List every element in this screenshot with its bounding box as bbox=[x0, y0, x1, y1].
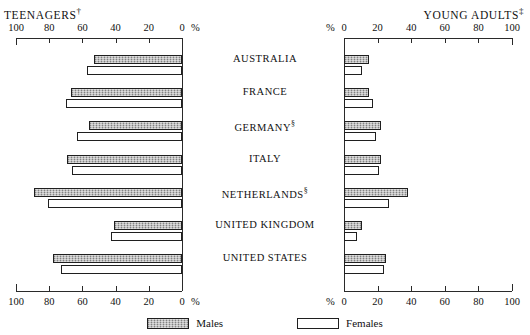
left-bar-male-united-states bbox=[53, 254, 182, 263]
right-axis-unit: % bbox=[326, 296, 335, 307]
right-bar-male-italy bbox=[344, 155, 381, 164]
right-axis-tick bbox=[411, 286, 412, 291]
left-axis-tick bbox=[82, 286, 83, 291]
left-axis-tick bbox=[49, 38, 50, 43]
right-axis-tick-label: 40 bbox=[406, 296, 417, 307]
right-axis-labels-bottom: 020406080100 bbox=[0, 296, 530, 309]
right-axis-tick-label: 100 bbox=[504, 296, 520, 307]
legend-label-males: Males bbox=[196, 317, 223, 329]
right-bar-male-united-kingdom bbox=[344, 221, 362, 230]
right-axis-tick-label: 100 bbox=[504, 22, 520, 33]
right-axis-tick bbox=[478, 286, 479, 291]
right-axis-labels-top: 020406080100 bbox=[0, 22, 530, 35]
category-label-text: ITALY bbox=[249, 153, 281, 164]
left-axis-line bbox=[16, 291, 182, 292]
right-axis-tick-label: 60 bbox=[440, 296, 451, 307]
right-bar-female-united-states bbox=[344, 265, 384, 274]
category-label-text: GERMANY bbox=[234, 122, 291, 133]
right-axis-tick bbox=[411, 38, 412, 43]
category-label-text: AUSTRALIA bbox=[233, 53, 297, 64]
left-bar-male-united-kingdom bbox=[114, 221, 182, 230]
legend-item-females: Females bbox=[297, 317, 383, 329]
right-axis-tick-label: 60 bbox=[440, 22, 451, 33]
left-panel-title-text: TEENAGERS bbox=[4, 9, 76, 21]
category-label-netherlands: NETHERLANDS§ bbox=[195, 186, 335, 200]
right-bar-female-france bbox=[344, 99, 373, 108]
right-axis-tick bbox=[445, 38, 446, 43]
left-zero-spine bbox=[182, 38, 183, 291]
right-axis-tick bbox=[378, 38, 379, 43]
left-bar-female-france bbox=[66, 99, 182, 108]
chart-legend: Males Females bbox=[0, 317, 530, 329]
right-bar-female-germany bbox=[344, 132, 376, 141]
right-axis-line bbox=[344, 38, 512, 39]
left-axis-tick bbox=[149, 38, 150, 43]
left-bar-female-united-kingdom bbox=[111, 232, 182, 241]
right-panel-title-text: YOUNG ADULTS bbox=[424, 9, 519, 21]
right-axis-tick bbox=[478, 38, 479, 43]
category-label-text: UNITED KINGDOM bbox=[215, 219, 314, 230]
right-axis-unit: % bbox=[326, 22, 335, 33]
category-label-text: NETHERLANDS bbox=[222, 188, 304, 199]
right-axis-tick-label: 0 bbox=[341, 296, 346, 307]
category-label-united-states: UNITED STATES bbox=[195, 252, 335, 263]
left-panel-title-marker: † bbox=[76, 6, 81, 16]
left-axis-tick bbox=[16, 38, 17, 45]
right-bar-female-italy bbox=[344, 166, 379, 175]
legend-item-males: Males bbox=[147, 317, 223, 329]
left-axis-tick bbox=[149, 286, 150, 291]
right-axis-tick-label: 0 bbox=[341, 22, 346, 33]
right-bar-male-netherlands bbox=[344, 188, 408, 197]
right-axis-tick-label: 20 bbox=[372, 296, 383, 307]
right-axis-tick-label: 80 bbox=[473, 22, 484, 33]
category-label-united-kingdom: UNITED KINGDOM bbox=[195, 219, 335, 230]
left-axis-line bbox=[16, 38, 182, 39]
left-axis-tick bbox=[16, 284, 17, 291]
left-bar-female-australia bbox=[87, 66, 182, 75]
category-label-australia: AUSTRALIA bbox=[195, 53, 335, 64]
legend-swatch-females-icon bbox=[297, 318, 339, 329]
category-label-text: FRANCE bbox=[243, 86, 287, 97]
category-label-marker: § bbox=[304, 186, 309, 195]
category-label-france: FRANCE bbox=[195, 86, 335, 97]
right-axis-tick bbox=[512, 284, 513, 291]
left-bar-female-italy bbox=[72, 166, 182, 175]
paired-bar-chart: TEENAGERS† YOUNG ADULTS‡ 100806040200%10… bbox=[0, 0, 530, 335]
right-bar-male-germany bbox=[344, 121, 381, 130]
left-axis-tick bbox=[82, 38, 83, 43]
left-bar-male-netherlands bbox=[34, 188, 182, 197]
right-panel-title-marker: ‡ bbox=[519, 6, 524, 16]
left-panel-title: TEENAGERS† bbox=[4, 6, 82, 21]
right-axis-tick bbox=[378, 286, 379, 291]
right-bar-male-france bbox=[344, 88, 369, 97]
left-bar-male-australia bbox=[94, 55, 182, 64]
right-bar-female-netherlands bbox=[344, 199, 389, 208]
left-bar-female-germany bbox=[77, 132, 182, 141]
left-axis-tick bbox=[49, 286, 50, 291]
right-panel-title: YOUNG ADULTS‡ bbox=[424, 6, 524, 21]
legend-label-females: Females bbox=[346, 317, 383, 329]
right-bar-female-united-kingdom bbox=[344, 232, 357, 241]
right-axis-tick-label: 20 bbox=[372, 22, 383, 33]
right-bar-female-australia bbox=[344, 66, 362, 75]
left-axis-tick bbox=[116, 38, 117, 43]
left-bar-male-italy bbox=[67, 155, 182, 164]
right-axis-tick-label: 80 bbox=[473, 296, 484, 307]
left-bar-female-netherlands bbox=[48, 199, 182, 208]
category-label-germany: GERMANY§ bbox=[195, 119, 335, 133]
right-axis-line bbox=[344, 291, 512, 292]
category-label-italy: ITALY bbox=[195, 153, 335, 164]
left-bar-male-germany bbox=[89, 121, 182, 130]
right-axis-tick-label: 40 bbox=[406, 22, 417, 33]
right-axis-tick bbox=[512, 38, 513, 45]
left-bar-female-united-states bbox=[61, 265, 182, 274]
category-label-marker: § bbox=[291, 119, 296, 128]
category-label-text: UNITED STATES bbox=[223, 252, 308, 263]
legend-swatch-males-icon bbox=[147, 318, 189, 329]
left-bar-male-france bbox=[71, 88, 182, 97]
right-axis-tick bbox=[445, 286, 446, 291]
right-bar-male-australia bbox=[344, 55, 369, 64]
right-zero-spine bbox=[344, 38, 345, 291]
right-bar-male-united-states bbox=[344, 254, 386, 263]
left-axis-tick bbox=[116, 286, 117, 291]
